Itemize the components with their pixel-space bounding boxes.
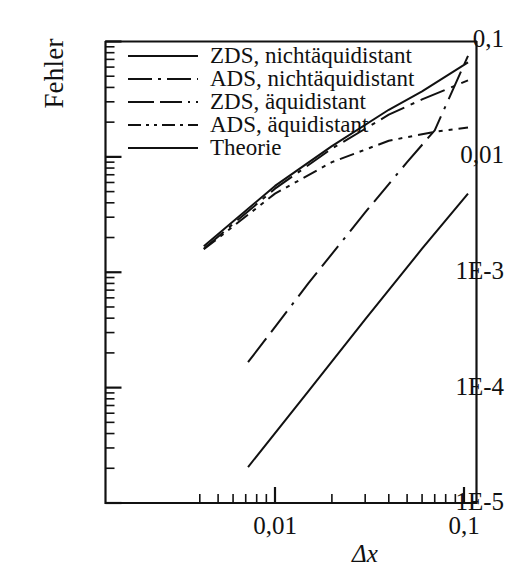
series-line xyxy=(248,194,468,467)
legend: ZDS, nichtäquidistant ADS, nichtäquidist… xyxy=(126,44,456,159)
legend-item-1[interactable]: ADS, nichtäquidistant xyxy=(126,67,456,90)
y-axis-ticks xyxy=(106,42,122,504)
legend-line-sample-long-dash xyxy=(126,91,200,113)
legend-item-0[interactable]: ZDS, nichtäquidistant xyxy=(126,44,456,67)
legend-line-sample-dash-dot xyxy=(126,68,200,90)
x-axis-ticks xyxy=(200,487,464,503)
legend-item-3[interactable]: ADS, äquidistant xyxy=(126,113,456,136)
legend-label-0: ZDS, nichtäquidistant xyxy=(200,44,412,67)
legend-label-3: ADS, äquidistant xyxy=(200,113,368,136)
legend-label-1: ADS, nichtäquidistant xyxy=(200,67,414,90)
legend-label-4: Theorie xyxy=(200,136,282,159)
legend-item-2[interactable]: ZDS, äquidistant xyxy=(126,90,456,113)
legend-line-sample-solid xyxy=(126,45,200,67)
legend-line-sample-solid-theory xyxy=(126,137,200,159)
legend-line-sample-dash-dot-dot xyxy=(126,114,200,136)
legend-item-4[interactable]: Theorie xyxy=(126,136,456,159)
legend-label-2: ZDS, äquidistant xyxy=(200,90,366,113)
